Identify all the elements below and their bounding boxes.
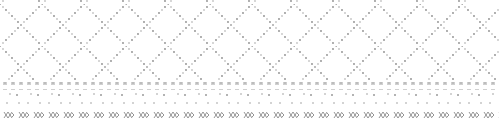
diamond-dot-lattice: [0, 0, 499, 80]
cross-stitch-motif-row: [0, 108, 499, 118]
square-row: [0, 82, 499, 90]
decorative-pattern: [0, 0, 499, 122]
lower-dot-lattice: [0, 92, 499, 106]
